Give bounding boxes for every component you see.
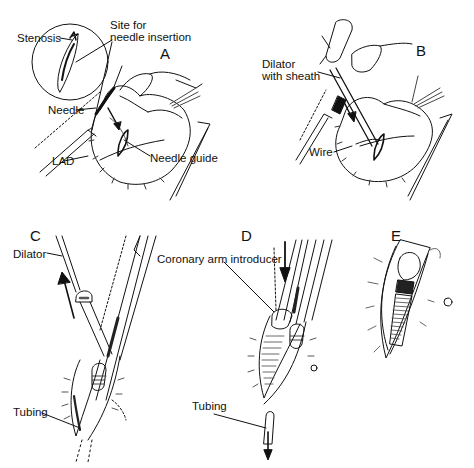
panel-b-art bbox=[296, 20, 452, 200]
panel-letter-b: B bbox=[416, 43, 426, 58]
panel-letter-d: D bbox=[241, 228, 252, 243]
panel-c-art bbox=[42, 236, 156, 462]
label-site-for-needle-insertion-line1: Site for bbox=[110, 19, 146, 31]
panel-letter-e: E bbox=[391, 228, 401, 243]
label-coronary-arm-introducer: Coronary arm introducer bbox=[157, 253, 282, 265]
surgical-figure: Stenosis Site for needle insertion A Nee… bbox=[0, 0, 474, 468]
label-dilator: Dilator bbox=[13, 248, 46, 260]
label-dilator-with-sheath-line1: Dilator bbox=[262, 58, 295, 70]
label-wire: Wire bbox=[309, 146, 333, 158]
label-needle: Needle bbox=[48, 104, 84, 116]
panel-d-art bbox=[214, 240, 332, 460]
label-lad: LAD bbox=[52, 155, 74, 167]
label-tubing-c: Tubing bbox=[13, 406, 48, 418]
panel-letter-a: A bbox=[160, 46, 170, 61]
label-dilator-with-sheath-line2: with sheath bbox=[262, 70, 320, 82]
label-stenosis: Stenosis bbox=[17, 32, 61, 44]
label-needle-guide: Needle guide bbox=[150, 152, 218, 164]
label-site-for-needle-insertion-line2: needle insertion bbox=[110, 31, 191, 43]
line-art bbox=[0, 0, 474, 468]
panel-e-art bbox=[366, 240, 452, 358]
label-tubing-d: Tubing bbox=[192, 400, 227, 412]
panel-letter-c: C bbox=[30, 228, 41, 243]
